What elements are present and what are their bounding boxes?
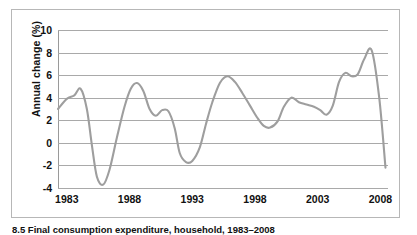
- y-axis-tick--2: -2: [12, 160, 52, 171]
- series-path-annual-change: [58, 48, 385, 184]
- figure-caption: 8.5 Final consumption expenditure, house…: [12, 224, 412, 235]
- x-axis-tick-1993: 1993: [162, 194, 222, 205]
- x-axis-tick-1988: 1988: [100, 194, 160, 205]
- plot-area: 1086420-2-4 198319881993199820032008: [58, 30, 388, 188]
- gridline: [58, 188, 388, 189]
- y-axis-tick-4: 4: [12, 93, 52, 104]
- y-axis-tick--4: -4: [12, 183, 52, 194]
- chart-frame: Annual change (%) 1086420-2-4 1983198819…: [11, 9, 400, 218]
- y-axis-tick-0: 0: [12, 138, 52, 149]
- y-axis-tick-10: 10: [12, 25, 52, 36]
- x-axis-tick-2008: 2008: [350, 194, 410, 205]
- x-axis-tick-1983: 1983: [37, 194, 97, 205]
- x-axis-tick-1998: 1998: [225, 194, 285, 205]
- figure-container: Annual change (%) 1086420-2-4 1983198819…: [0, 0, 417, 235]
- line-series: [58, 30, 388, 188]
- y-axis-tick-6: 6: [12, 70, 52, 81]
- y-axis-tick-2: 2: [12, 115, 52, 126]
- y-axis-tick-8: 8: [12, 48, 52, 59]
- x-axis-tick-2003: 2003: [288, 194, 348, 205]
